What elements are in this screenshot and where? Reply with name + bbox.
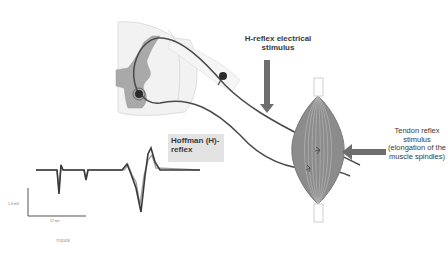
dorsal-root-ganglion-cell	[219, 72, 227, 80]
stimulus-arrow-electrical	[260, 60, 274, 113]
scale-horizontal-label: 17 ms	[50, 219, 60, 223]
tendon-bottom	[314, 204, 323, 222]
stimulus-arrow-tendon	[342, 144, 386, 160]
scale-vertical-label: 1.0 mV	[8, 202, 19, 206]
recording-id: 7132458	[56, 239, 70, 243]
h-reflex-stimulus-label: H-reflex electrical stimulus	[236, 34, 320, 52]
tendon-top	[314, 78, 323, 96]
motor-neuron-cell-body	[135, 90, 143, 98]
tendon-reflex-stimulus-label: Tendon reflex stimulus (elongation of th…	[388, 127, 446, 162]
reflex-diagram	[0, 0, 448, 253]
hoffman-reflex-label: Hoffman (H)-reflex	[168, 134, 224, 162]
muscle	[292, 78, 344, 222]
